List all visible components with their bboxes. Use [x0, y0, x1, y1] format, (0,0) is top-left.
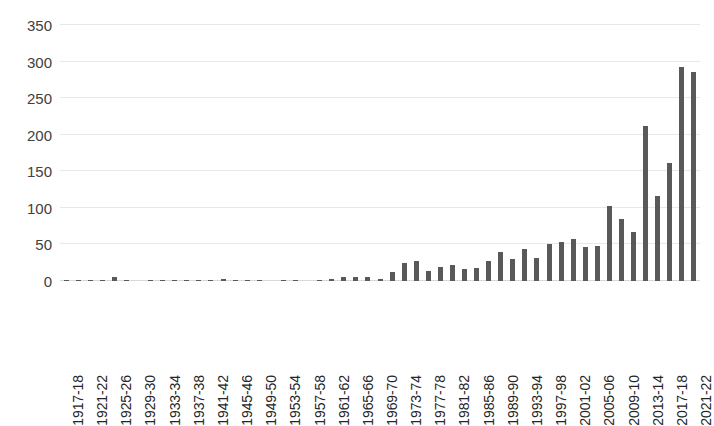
x-tick-label: 2021-22: [699, 375, 713, 426]
bar: [317, 280, 322, 281]
x-axis: 1917-181921-221925-261929-301933-341937-…: [60, 283, 700, 379]
bar: [414, 261, 419, 281]
bar: [679, 67, 684, 281]
bar: [208, 280, 213, 281]
gridline-100: [60, 207, 700, 208]
bar: [112, 277, 117, 281]
x-tick-label: 1969-70: [385, 375, 399, 426]
bar: [281, 280, 286, 281]
gridline-300: [60, 61, 700, 62]
x-tick-label: 2001-02: [578, 375, 592, 426]
x-tick-label: 1973-74: [409, 375, 423, 426]
x-tick-label: 1941-42: [216, 375, 230, 426]
bar: [160, 280, 165, 281]
y-axis: 050100150200250300350: [0, 25, 52, 281]
bar: [631, 232, 636, 281]
x-tick-label: 1957-58: [313, 375, 327, 426]
gridline-350: [60, 24, 700, 25]
bar: [474, 268, 479, 281]
bar: [257, 280, 262, 281]
bar: [643, 126, 648, 281]
bar: [196, 280, 201, 281]
bar: [402, 263, 407, 281]
bar: [559, 242, 564, 281]
bar: [571, 239, 576, 281]
x-tick-label: 1965-66: [361, 375, 375, 426]
x-tick-label: 1953-54: [288, 375, 302, 426]
x-tick-label: 1977-78: [433, 375, 447, 426]
x-tick-label: 1985-86: [482, 375, 496, 426]
y-tick-label: 200: [27, 127, 52, 142]
x-tick-label: 1949-50: [264, 375, 278, 426]
y-tick-label: 50: [35, 237, 52, 252]
bar: [547, 244, 552, 281]
x-tick-label: 1921-22: [95, 375, 109, 426]
bar: [583, 247, 588, 281]
y-tick-label: 100: [27, 200, 52, 215]
x-tick-label: 2013-14: [651, 375, 665, 426]
bar: [148, 280, 153, 281]
bar: [498, 252, 503, 281]
x-tick-label: 1981-82: [457, 375, 471, 426]
bar: [76, 280, 81, 281]
x-tick-label: 1937-38: [192, 375, 206, 426]
bar: [172, 280, 177, 281]
x-tick-label: 1933-34: [168, 375, 182, 426]
bar: [329, 279, 334, 281]
bar: [365, 277, 370, 281]
bar: [655, 196, 660, 281]
bar: [378, 279, 383, 281]
bar: [522, 249, 527, 281]
bar: [293, 280, 298, 281]
bar: [124, 280, 129, 281]
plot-area: [60, 25, 700, 281]
bar: [245, 280, 250, 281]
bar: [353, 277, 358, 281]
x-tick-label: 1997-98: [554, 375, 568, 426]
bar: [510, 259, 515, 281]
bar: [438, 267, 443, 281]
x-tick-label: 2009-10: [627, 375, 641, 426]
bar: [221, 279, 226, 281]
bar: [486, 261, 491, 281]
gridline-250: [60, 97, 700, 98]
bar: [450, 265, 455, 281]
gridline-200: [60, 134, 700, 135]
y-tick-label: 350: [27, 18, 52, 33]
y-tick-label: 250: [27, 91, 52, 106]
bar: [88, 280, 93, 281]
bar: [100, 280, 105, 281]
bar: [426, 271, 431, 281]
bar: [233, 280, 238, 281]
y-tick-label: 300: [27, 54, 52, 69]
x-tick-label: 1945-46: [240, 375, 254, 426]
x-tick-label: 1989-90: [506, 375, 520, 426]
bar: [64, 280, 69, 281]
y-tick-label: 150: [27, 164, 52, 179]
gridline-150: [60, 170, 700, 171]
bar: [390, 272, 395, 282]
x-tick-label: 1925-26: [119, 375, 133, 426]
bar: [341, 277, 346, 281]
x-tick-label: 2005-06: [602, 375, 616, 426]
x-tick-label: 1929-30: [143, 375, 157, 426]
bar: [691, 72, 696, 281]
y-tick-label: 0: [44, 274, 52, 289]
x-tick-label: 1961-62: [337, 375, 351, 426]
bar: [619, 219, 624, 281]
x-tick-label: 1917-18: [71, 375, 85, 426]
x-tick-label: 1993-94: [530, 375, 544, 426]
bar: [462, 269, 467, 281]
bar: [667, 163, 672, 281]
bar: [607, 206, 612, 281]
x-tick-label: 2017-18: [675, 375, 689, 426]
bar: [534, 258, 539, 281]
gridline-50: [60, 243, 700, 244]
bar: [595, 246, 600, 281]
bar: [184, 280, 189, 281]
